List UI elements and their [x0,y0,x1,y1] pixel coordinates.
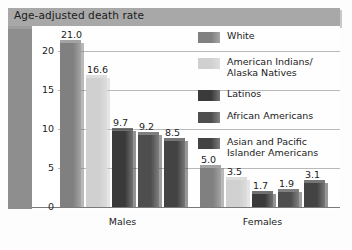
bar-top [200,165,221,168]
bar [164,141,185,207]
bar [86,78,107,207]
bar [60,43,81,207]
y-tick-label-20: 20 [32,46,54,56]
bar-side [159,135,162,207]
bar-top [164,138,185,141]
legend-swatch [198,138,220,149]
bar-face [86,78,107,207]
bar-top [278,189,299,192]
bar-face [252,194,273,207]
y-tick-label-15: 15 [32,85,54,95]
bar-value-label: 3.1 [305,170,320,180]
bar-face [112,131,133,207]
bar-side [107,78,110,207]
bar-face [226,180,247,207]
chart-left-wall-top [8,26,32,29]
bar-value-label: 1.9 [279,179,294,189]
bar-face [60,43,81,207]
bar-top [112,128,133,131]
legend-label: Latinos [227,89,261,100]
legend-item: Asian and Pacific Islander Americans [198,138,318,158]
legend-label: American Indians/ Alaska Natives [227,57,313,78]
legend-label: White [227,31,255,42]
bar-side [247,180,250,207]
legend-label: African Americans [227,111,313,122]
bar [252,194,273,207]
legend-swatch [198,90,220,101]
y-tick-label-0: 0 [32,202,54,212]
bar-face [304,183,325,207]
chart-title: Age-adjusted death rate [14,9,144,21]
chart-left-wall [8,26,32,209]
bar [304,183,325,207]
legend-item: Latinos [198,90,261,101]
legend-item: White [198,32,255,43]
bar-side [299,192,302,207]
bar-face [278,192,299,207]
bar-top [226,177,247,180]
bar-value-label: 9.7 [113,118,128,128]
bar [112,131,133,207]
bar-value-label: 21.0 [61,30,82,40]
y-tick-label-10: 10 [32,124,54,134]
bar-side [325,183,328,207]
bar-face [200,168,221,207]
legend-item: African Americans [198,112,313,123]
group-label-females: Females [223,216,303,227]
legend-item: American Indians/ Alaska Natives [198,58,313,78]
bar-top [252,191,273,194]
gridline-0 [32,207,340,208]
bar-top [60,40,81,43]
bar-value-label: 9.2 [139,122,154,132]
chart-figure: Age-adjusted death rate 05101520 21.016.… [0,0,352,250]
gridline-20 [58,51,340,52]
group-label-males: Males [83,216,163,227]
bar [200,168,221,207]
bar [226,180,247,207]
legend-swatch [198,58,220,69]
bar-top [86,75,107,78]
bar-value-label: 8.5 [165,128,180,138]
bar-side [273,194,276,207]
bar-face [164,141,185,207]
bar [278,192,299,207]
bar-face [138,135,159,207]
legend-swatch [198,112,220,123]
bar [138,135,159,207]
bar-side [133,131,136,207]
bar-side [185,141,188,207]
legend-swatch [198,32,220,43]
bar-side [81,43,84,207]
bar-top [304,180,325,183]
bar-value-label: 16.6 [87,65,108,75]
legend-label: Asian and Pacific Islander Americans [227,137,318,158]
y-tick-label-5: 5 [32,163,54,173]
bar-value-label: 1.7 [253,181,268,191]
bar-top [138,132,159,135]
bar-side [221,168,224,207]
bar-value-label: 3.5 [227,167,242,177]
